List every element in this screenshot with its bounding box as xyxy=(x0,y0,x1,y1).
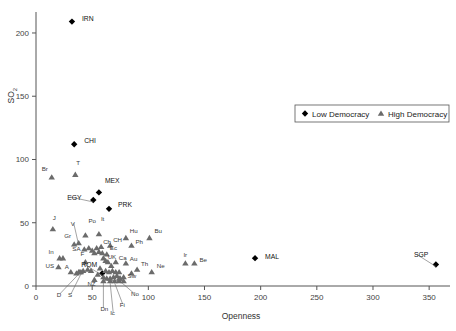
data-point-triangle xyxy=(50,226,56,231)
data-point-triangle xyxy=(96,231,102,236)
point-label: MAL xyxy=(265,253,279,260)
point-label: US xyxy=(45,262,54,269)
plot-svg: 050100150200250300350050100150200Opennes… xyxy=(0,0,456,331)
point-label: Be xyxy=(199,256,207,263)
data-point-diamond xyxy=(71,141,77,147)
point-label: Ne xyxy=(157,262,165,269)
point-label: Au xyxy=(130,255,138,262)
scatter-chart: 050100150200250300350050100150200Opennes… xyxy=(0,0,456,331)
data-point-triangle xyxy=(55,264,61,269)
legend-label-low-democracy: Low Democracy xyxy=(312,110,369,119)
point-label: Bu xyxy=(154,227,162,234)
point-label: CH xyxy=(113,236,122,243)
x-axis-title: Openness xyxy=(222,311,261,321)
x-tick-label: 150 xyxy=(198,293,212,302)
data-point-diamond xyxy=(69,18,75,24)
point-label: CHI xyxy=(84,137,96,144)
axes-layer: 050100150200250300350050100150200Opennes… xyxy=(6,12,450,321)
point-label: V xyxy=(71,220,76,227)
data-point-triangle xyxy=(123,235,129,240)
point-label: ROM xyxy=(81,261,97,268)
y-tick-label: 150 xyxy=(16,92,30,101)
data-point-diamond xyxy=(252,255,258,261)
data-point-diamond xyxy=(106,206,112,212)
data-point-triangle xyxy=(49,174,55,179)
point-label: F xyxy=(80,250,84,257)
point-label: Br xyxy=(42,165,48,172)
data-point-triangle xyxy=(97,265,103,270)
y-axis-title-text: SO2 xyxy=(6,87,18,103)
data-point-triangle xyxy=(128,242,134,247)
x-tick-label: 350 xyxy=(422,293,436,302)
point-label: Ec xyxy=(110,244,117,251)
data-point-triangle xyxy=(148,269,154,274)
point-label: T xyxy=(76,159,80,166)
point-label: Gr xyxy=(64,232,71,239)
point-label: SGP xyxy=(414,251,429,258)
point-label: PRK xyxy=(118,201,132,208)
labels-layer: IRNCHIMEXEGYPRKROMMALSGPBrTJVPoGrSAItChC… xyxy=(42,15,436,316)
point-label: MEX xyxy=(105,177,120,184)
data-point-diamond xyxy=(96,189,102,195)
point-label: Ca xyxy=(119,254,127,261)
data-point-diamond xyxy=(433,261,439,267)
x-tick-label: 100 xyxy=(142,293,156,302)
point-label: Hu xyxy=(130,227,138,234)
legend-layer: Low DemocracyHigh Democracy xyxy=(295,105,449,122)
point-label: No xyxy=(131,290,139,297)
point-label: EGY xyxy=(67,194,82,201)
data-point-triangle xyxy=(82,232,88,237)
point-label: Fi xyxy=(120,301,125,308)
data-point-triangle xyxy=(72,172,78,177)
legend-label-high-democracy: High Democracy xyxy=(388,110,447,119)
point-label: Dn xyxy=(100,305,108,312)
point-label: Po xyxy=(88,217,96,224)
y-tick-label: 100 xyxy=(16,155,30,164)
point-label: It xyxy=(101,215,105,222)
point-label: IRN xyxy=(82,15,94,22)
x-tick-label: 0 xyxy=(34,293,39,302)
data-point-triangle xyxy=(134,266,140,271)
point-label: UK xyxy=(108,253,117,260)
y-axis-title-subscript: 2 xyxy=(12,87,18,91)
point-label: Sw xyxy=(128,272,137,279)
x-tick-label: 200 xyxy=(254,293,268,302)
data-point-diamond xyxy=(90,197,96,203)
point-label: Th xyxy=(141,260,149,267)
x-tick-label: 300 xyxy=(366,293,380,302)
point-label: In xyxy=(49,248,55,255)
data-point-triangle xyxy=(146,235,152,240)
point-label: S xyxy=(68,291,72,298)
point-label: D xyxy=(57,291,62,298)
point-label: NZ xyxy=(87,280,95,287)
y-tick-label: 50 xyxy=(20,219,29,228)
point-label: Ic xyxy=(110,309,115,316)
data-point-triangle xyxy=(191,260,197,265)
y-tick-label: 200 xyxy=(16,29,30,38)
y-tick-label: 0 xyxy=(25,282,30,291)
x-tick-label: 250 xyxy=(310,293,324,302)
point-label: Ph xyxy=(135,238,143,245)
x-tick-label: 50 xyxy=(88,293,97,302)
point-label: J xyxy=(53,214,56,221)
y-axis-title: SO2 xyxy=(6,87,18,103)
point-label: A xyxy=(65,263,70,270)
label-leader-line xyxy=(110,283,113,312)
point-label: Ir xyxy=(183,251,187,258)
data-point-triangle xyxy=(182,260,188,265)
